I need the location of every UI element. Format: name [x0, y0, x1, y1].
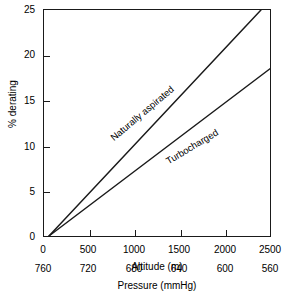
- pressure-axis-caption: Pressure (mmHg): [43, 280, 271, 291]
- pressure-tick-label-680: 680: [111, 264, 157, 274]
- pressure-tick-label-560: 560: [247, 264, 284, 274]
- plot-area: Naturally aspirated Turbocharged: [43, 9, 271, 237]
- pressure-tick-label-600: 600: [202, 264, 248, 274]
- x-tick-label-1000: 1000: [111, 245, 157, 255]
- y-tick-label-15: 15: [5, 96, 35, 106]
- x-tick-label-1500: 1500: [156, 245, 202, 255]
- pressure-tick-label-760: 760: [20, 264, 66, 274]
- y-tick-label-5: 5: [5, 187, 35, 197]
- y-tick-label-20: 20: [5, 50, 35, 60]
- y-tick-label-25: 25: [5, 5, 35, 15]
- chart-figure: % derating 25 20 15 10 5 0 0 500 1000 15…: [0, 0, 284, 294]
- x-tick-label-2000: 2000: [202, 245, 248, 255]
- y-tick-label-0: 0: [5, 232, 35, 242]
- pressure-tick-label-640: 640: [156, 264, 202, 274]
- x-tick-label-500: 500: [65, 245, 111, 255]
- data-lines: [44, 10, 270, 236]
- x-tick-label-2500: 2500: [247, 245, 284, 255]
- series-line-naturally-aspirated: [49, 10, 261, 236]
- y-tick-label-10: 10: [5, 142, 35, 152]
- x-tick-label-0: 0: [20, 245, 66, 255]
- pressure-tick-label-720: 720: [65, 264, 111, 274]
